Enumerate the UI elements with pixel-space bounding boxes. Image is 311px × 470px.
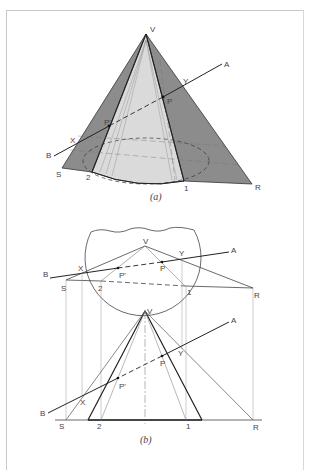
top-edge-vs xyxy=(66,246,145,280)
front-label-1: 1 xyxy=(186,422,191,431)
front-point-p xyxy=(161,355,164,358)
front-element-v2 xyxy=(101,311,145,420)
front-label-x: X xyxy=(80,398,86,407)
front-label-a: A xyxy=(231,316,237,325)
top-label-2: 2 xyxy=(98,284,103,293)
top-label-s: S xyxy=(61,284,66,293)
top-point-p xyxy=(161,261,164,264)
front-line-ab-b xyxy=(48,378,118,413)
caption-b: (b) xyxy=(140,434,152,446)
label-r: R xyxy=(255,183,261,192)
top-line-ab-hidden xyxy=(118,262,162,268)
front-label-v: V xyxy=(147,307,153,316)
label-a: A xyxy=(224,60,230,69)
front-label-2: 2 xyxy=(97,422,102,431)
front-line-ab-a xyxy=(162,322,229,356)
top-label-p: P xyxy=(160,264,165,273)
point-p xyxy=(162,96,165,99)
label-b: B xyxy=(46,151,51,160)
top-edge-21-hidden xyxy=(101,281,185,286)
front-label-b: B xyxy=(40,409,45,418)
front-element-v1 xyxy=(145,311,186,420)
front-label-p-prime: P' xyxy=(119,382,126,391)
figure-b-top-view: V A Y P P' X B S 2 1 R xyxy=(43,227,260,315)
label-p-prime: P' xyxy=(104,118,111,127)
top-line-ab-c xyxy=(50,268,118,278)
label-s: S xyxy=(56,170,61,179)
top-point-p-prime xyxy=(117,267,120,270)
label-y: Y xyxy=(183,77,189,86)
front-label-y: Y xyxy=(178,349,184,358)
top-label-v: V xyxy=(143,237,149,246)
front-label-s: S xyxy=(59,422,64,431)
top-label-y: Y xyxy=(179,249,185,258)
top-label-b: B xyxy=(43,270,48,279)
front-edge-vs xyxy=(66,311,145,420)
label-p: P xyxy=(167,97,172,106)
top-edge-1r xyxy=(185,286,253,288)
front-label-r: R xyxy=(253,423,259,432)
figure-a: V A Y P P' X B S 2 1 R (a) xyxy=(46,25,261,203)
top-line-ab-b xyxy=(162,259,182,262)
top-edge-s2 xyxy=(66,280,101,281)
front-label-p: P xyxy=(160,359,165,368)
front-line-ab-hidden xyxy=(118,356,162,378)
top-line-ab-a xyxy=(182,252,229,259)
label-x: X xyxy=(70,136,76,145)
top-label-x: X xyxy=(78,264,84,273)
caption-a: (a) xyxy=(150,191,162,203)
top-label-a: A xyxy=(231,246,237,255)
top-label-1: 1 xyxy=(187,288,192,297)
top-label-r: R xyxy=(254,291,260,300)
top-label-p-prime: P' xyxy=(119,271,126,280)
label-1: 1 xyxy=(184,184,189,193)
figure-b-front-view: V A Y P P' X B S 2 1 R (b) xyxy=(40,307,262,446)
label-2: 2 xyxy=(86,173,91,182)
front-point-p-prime xyxy=(117,377,120,380)
label-v: V xyxy=(150,25,156,34)
